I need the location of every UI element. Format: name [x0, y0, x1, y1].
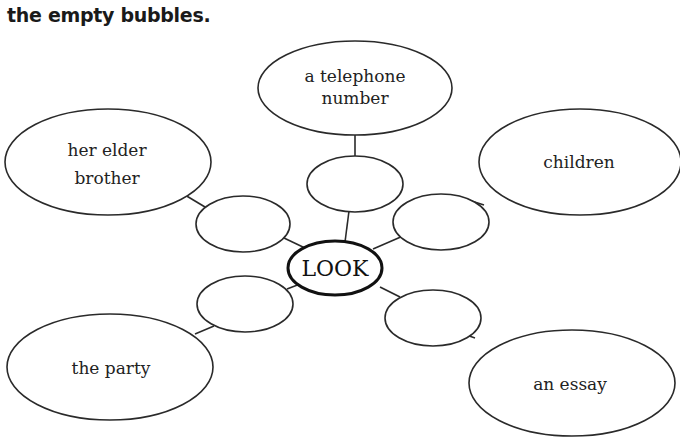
empty-bubble-lower-left[interactable] [197, 276, 293, 332]
label-upper-left-line1: her elder [67, 140, 147, 160]
label-lower-left: the party [72, 358, 151, 378]
label-upper-right: children [543, 152, 614, 172]
word-web-diagram: LOOK a telephone number her elder brothe… [0, 0, 680, 440]
connector-top-inner [345, 211, 349, 242]
label-lower-right: an essay [533, 374, 607, 394]
connector-upper-right-inner [373, 236, 403, 249]
empty-bubble-lower-right[interactable] [385, 290, 481, 346]
label-top-line2: number [321, 88, 389, 108]
empty-bubble-upper-left[interactable] [196, 196, 290, 252]
label-top-line1: a telephone [304, 66, 405, 86]
label-upper-left-line2: brother [74, 168, 140, 188]
empty-bubble-top[interactable] [307, 156, 403, 212]
bubble-upper-left-labeled [5, 109, 211, 215]
connector-lower-right-inner [380, 287, 400, 297]
connector-upper-left-outer [185, 195, 205, 207]
empty-bubble-upper-right[interactable] [393, 194, 489, 250]
center-label: LOOK [301, 256, 369, 281]
connector-upper-left-inner [284, 238, 305, 248]
connector-lower-left-outer [195, 326, 214, 334]
